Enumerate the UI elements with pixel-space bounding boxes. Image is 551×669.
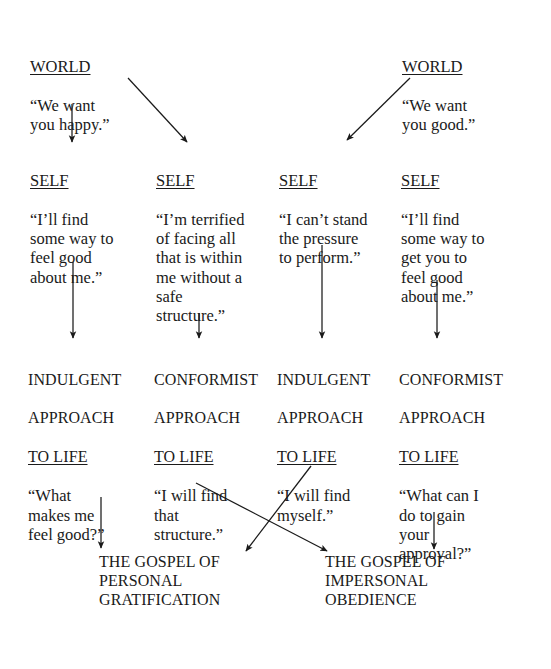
node-approach-1: INDULGENT APPROACH TO LIFE “What makes m… [28, 352, 152, 564]
approach-3-line3: TO LIFE [277, 448, 337, 467]
approach-2-quote: “I will find that structure.” [154, 486, 280, 544]
approach-4-quote: “What can I do to gain your approval?” [399, 486, 527, 563]
arrow-world-right-to-self-3 [347, 78, 410, 140]
diagram-canvas: WORLD “We want you happy.” WORLD “We wan… [0, 0, 551, 669]
node-approach-3: INDULGENT APPROACH TO LIFE “I will find … [277, 352, 401, 544]
world-right-heading: WORLD [402, 57, 463, 76]
self-2-heading: SELF [156, 171, 195, 190]
self-1-heading-line: SELF [30, 171, 148, 190]
world-right-heading-line: WORLD [402, 57, 527, 76]
self-4-heading: SELF [401, 171, 440, 190]
node-self-2: SELF “I’m terrified of facing all that i… [156, 152, 278, 345]
approach-4-line1: CONFORMIST [399, 371, 527, 390]
node-world-right: WORLD “We want you good.” [402, 38, 527, 154]
self-2-quote: “I’m terrified of facing all that is wit… [156, 210, 278, 326]
approach-1-line2: APPROACH [28, 409, 152, 428]
node-self-1: SELF “I’ll find some way to feel good ab… [30, 152, 148, 306]
approach-2-line1: CONFORMIST [154, 371, 280, 390]
node-approach-2: CONFORMIST APPROACH TO LIFE “I will find… [154, 352, 280, 564]
self-3-heading: SELF [279, 171, 318, 190]
approach-1-line1: INDULGENT [28, 371, 152, 390]
node-gospel-right: THE GOSPEL OF IMPERSONAL OBEDIENCE [325, 553, 520, 610]
world-left-heading: WORLD [30, 57, 91, 76]
approach-3-quote: “I will find myself.” [277, 486, 401, 525]
node-world-left: WORLD “We want you happy.” [30, 38, 150, 154]
world-right-quote: “We want you good.” [402, 96, 527, 135]
approach-4-line3-wrap: TO LIFE [399, 447, 527, 467]
approach-3-line3-wrap: TO LIFE [277, 447, 401, 467]
approach-1-line3-wrap: TO LIFE [28, 447, 152, 467]
node-self-3: SELF “I can’t stand the pressure to perf… [279, 152, 401, 287]
self-1-heading: SELF [30, 171, 69, 190]
approach-2-line2: APPROACH [154, 409, 280, 428]
self-4-heading-line: SELF [401, 171, 526, 190]
approach-1-line3: TO LIFE [28, 448, 88, 467]
approach-2-line3-wrap: TO LIFE [154, 447, 280, 467]
approach-3-line1: INDULGENT [277, 371, 401, 390]
approach-2-line3: TO LIFE [154, 448, 214, 467]
approach-3-line2: APPROACH [277, 409, 401, 428]
self-2-heading-line: SELF [156, 171, 278, 190]
approach-4-line2: APPROACH [399, 409, 527, 428]
world-left-quote: “We want you happy.” [30, 96, 150, 135]
self-1-quote: “I’ll find some way to feel good about m… [30, 210, 148, 287]
node-approach-4: CONFORMIST APPROACH TO LIFE “What can I … [399, 352, 527, 583]
node-self-4: SELF “I’ll find some way to get you to f… [401, 152, 526, 326]
approach-1-quote: “What makes me feel good?” [28, 486, 152, 544]
approach-4-line3: TO LIFE [399, 448, 459, 467]
self-4-quote: “I’ll find some way to get you to feel g… [401, 210, 526, 306]
self-3-heading-line: SELF [279, 171, 401, 190]
node-gospel-left: THE GOSPEL OF PERSONAL GRATIFICATION [99, 553, 289, 610]
world-left-heading-line: WORLD [30, 57, 150, 76]
self-3-quote: “I can’t stand the pressure to perform.” [279, 210, 401, 268]
